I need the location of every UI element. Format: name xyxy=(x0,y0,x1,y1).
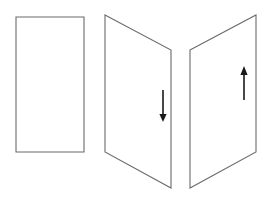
diagram-svg xyxy=(0,0,267,198)
left-folded-panel xyxy=(105,15,171,188)
diagram-canvas xyxy=(0,0,267,198)
flat-rectangle-panel xyxy=(16,17,84,152)
right-folded-panel xyxy=(190,15,256,188)
